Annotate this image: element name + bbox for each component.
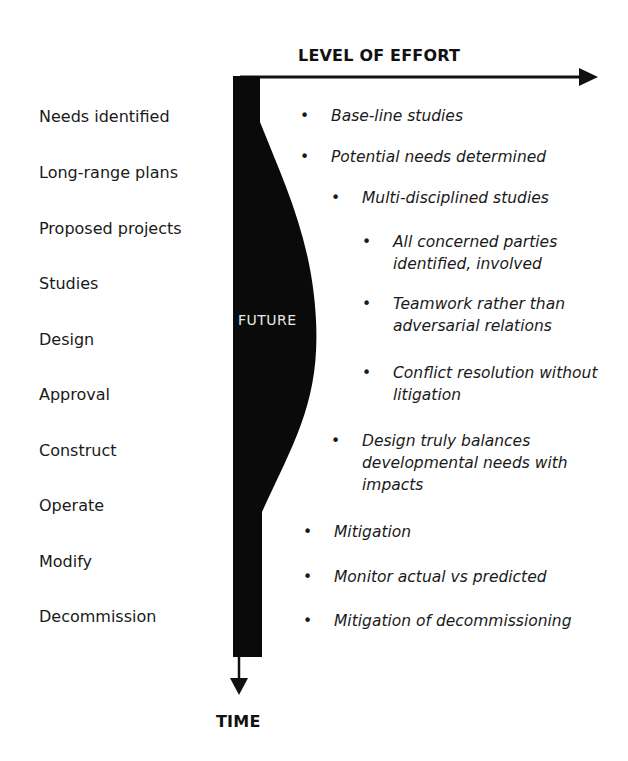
- bullet-icon: •: [303, 610, 312, 632]
- activity-item: • Conflict resolution without litigation: [362, 362, 622, 406]
- stage-label: Operate: [39, 496, 104, 515]
- stage-label: Needs identified: [39, 107, 170, 126]
- bullet-icon: •: [362, 293, 371, 315]
- effort-axis-arrowhead-icon: [579, 68, 598, 86]
- bullet-icon: •: [300, 146, 309, 168]
- stage-label: Proposed projects: [39, 219, 182, 238]
- stage-label: Long-range plans: [39, 163, 178, 182]
- stage-label: Studies: [39, 274, 98, 293]
- bullet-icon: •: [300, 105, 309, 127]
- effort-axis-label: LEVEL OF EFFORT: [298, 46, 460, 65]
- stage-label: Approval: [39, 385, 110, 404]
- bullet-icon: •: [331, 187, 340, 209]
- activity-item: • Design truly balances developmental ne…: [331, 430, 601, 496]
- stage-label: Decommission: [39, 607, 156, 626]
- activity-item: • Multi-disciplined studies: [331, 187, 601, 209]
- activity-item: • Monitor actual vs predicted: [303, 566, 603, 588]
- stage-label: Construct: [39, 441, 117, 460]
- bullet-icon: •: [331, 430, 340, 452]
- activity-item: • Teamwork rather than adversarial relat…: [362, 293, 612, 337]
- time-axis-label: TIME: [216, 712, 261, 731]
- future-band-label: FUTURE: [238, 312, 297, 328]
- bullet-icon: •: [303, 566, 312, 588]
- bullet-icon: •: [362, 362, 371, 384]
- stage-label: Modify: [39, 552, 92, 571]
- activity-item: • Mitigation: [303, 521, 603, 543]
- stage-label: Design: [39, 330, 94, 349]
- activity-item: • Potential needs determined: [300, 146, 600, 168]
- activity-item: • Mitigation of decommissioning: [303, 610, 623, 632]
- time-axis-arrowhead-icon: [230, 678, 248, 695]
- bullet-icon: •: [362, 231, 371, 253]
- bullet-icon: •: [303, 521, 312, 543]
- activity-item: • All concerned parties identified, invo…: [362, 231, 612, 275]
- effort-over-time-diagram: LEVEL OF EFFORT TIME FUTURE Needs identi…: [0, 0, 628, 761]
- activity-item: • Base-line studies: [300, 105, 600, 127]
